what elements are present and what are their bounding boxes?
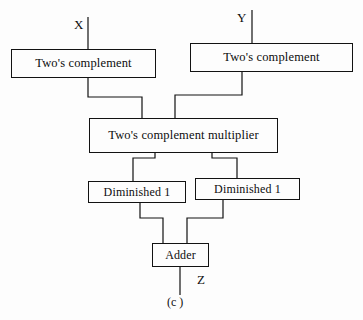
wire-twos-complement-x-to-multiplier [88,78,142,121]
block-label: Adder [165,248,196,263]
block-label: Diminished 1 [104,185,171,200]
wire-twos-complement-y-to-multiplier [175,72,242,121]
port-label-x: X [74,17,83,33]
figure-caption: (c ) [167,295,183,310]
port-label-z: Z [197,272,205,288]
block-twos-complement-y: Two's complement [190,43,353,72]
block-label: Diminished 1 [214,182,281,197]
figure-canvas: Two's complement Two's complement Two's … [0,0,363,320]
block-label: Two's complement [223,50,319,65]
wire-multiplier-to-diminished-right [212,153,237,178]
wire-diminished-right-to-adder [187,200,223,243]
block-twos-complement-multiplier: Two's complement multiplier [89,118,278,153]
block-twos-complement-x: Two's complement [11,49,156,78]
block-label: Two's complement [35,56,131,71]
block-adder: Adder [152,243,209,267]
port-label-y: Y [237,10,246,26]
block-label: Two's complement multiplier [108,128,259,143]
block-diminished-1-left: Diminished 1 [88,181,186,203]
wire-multiplier-to-diminished-left [133,153,155,181]
block-diminished-1-right: Diminished 1 [195,178,300,200]
wire-diminished-left-to-adder [140,203,163,243]
